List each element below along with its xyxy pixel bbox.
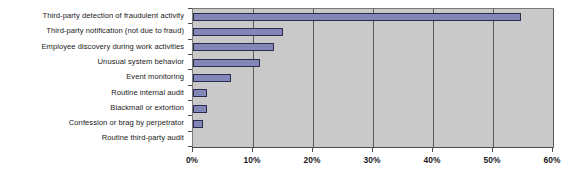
x-axis-tick bbox=[552, 147, 553, 152]
bar bbox=[193, 59, 260, 67]
category-label: Blackmail or extortion bbox=[110, 104, 184, 112]
bar-row bbox=[193, 86, 553, 101]
x-axis-tick-label: 50% bbox=[484, 155, 501, 165]
bar-row bbox=[193, 101, 553, 116]
category-label: Confession or brag by perpetrator bbox=[69, 119, 184, 127]
bar-row bbox=[193, 132, 553, 147]
category-label: Unusual system behavior bbox=[98, 58, 184, 66]
x-axis-tick bbox=[312, 147, 313, 152]
x-axis-tick-label: 30% bbox=[364, 155, 381, 165]
category-label: Event monitoring bbox=[126, 73, 184, 81]
gridline bbox=[553, 9, 554, 147]
category-label: Employee discovery during work activitie… bbox=[41, 43, 184, 51]
bar-chart: Third-party detection of fraudulent acti… bbox=[0, 0, 583, 184]
category-label: Routine third-party audit bbox=[102, 134, 184, 142]
x-axis-tick bbox=[492, 147, 493, 152]
x-axis-tick bbox=[192, 147, 193, 152]
category-label: Routine internal audit bbox=[111, 89, 184, 97]
x-axis-tick-label: 60% bbox=[544, 155, 561, 165]
bar bbox=[193, 105, 207, 113]
plot-area bbox=[192, 8, 554, 148]
category-axis-labels: Third-party detection of fraudulent acti… bbox=[0, 8, 188, 146]
x-axis-tick bbox=[372, 147, 373, 152]
bar-row bbox=[193, 116, 553, 131]
bar bbox=[193, 28, 283, 36]
bar bbox=[193, 43, 274, 51]
x-axis-tick bbox=[432, 147, 433, 152]
bar-row bbox=[193, 24, 553, 39]
bar-row bbox=[193, 70, 553, 85]
bar bbox=[193, 13, 521, 21]
category-label: Third-party detection of fraudulent acti… bbox=[43, 12, 185, 20]
bar bbox=[193, 120, 203, 128]
bar-series bbox=[193, 9, 553, 147]
x-axis-tick-label: 0% bbox=[186, 155, 198, 165]
bar bbox=[193, 89, 207, 97]
bar-row bbox=[193, 9, 553, 24]
x-axis-tick-label: 10% bbox=[244, 155, 261, 165]
x-axis-ticks bbox=[192, 147, 553, 152]
x-axis-tick-labels: 0%10%20%30%40%50%60% bbox=[192, 155, 553, 169]
x-axis-tick bbox=[252, 147, 253, 152]
bar bbox=[193, 74, 231, 82]
category-label: Third-party notification (not due to fra… bbox=[46, 27, 184, 35]
bar-row bbox=[193, 40, 553, 55]
x-axis-tick-label: 20% bbox=[304, 155, 321, 165]
x-axis-tick-label: 40% bbox=[424, 155, 441, 165]
bar-row bbox=[193, 55, 553, 70]
